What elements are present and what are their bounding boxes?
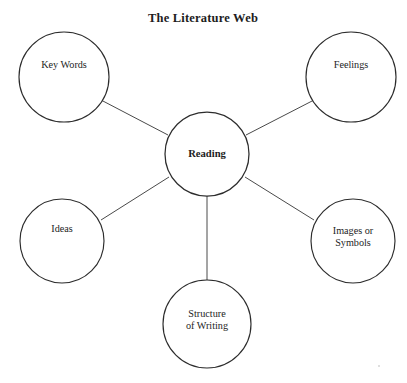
node-structure-of-writing[interactable]: Structureof Writing <box>163 280 251 368</box>
node-label-line: Reading <box>188 148 226 159</box>
node-label-ideas: Ideas <box>51 223 73 234</box>
node-circle-key-words[interactable] <box>19 32 109 122</box>
connector-reading-to-key-words <box>101 100 168 135</box>
node-feelings[interactable]: Feelings <box>306 32 396 122</box>
node-label-line: Symbols <box>335 237 371 248</box>
connector-reading-to-feelings <box>246 100 314 135</box>
node-label-reading: Reading <box>188 148 226 159</box>
node-label-line: Feelings <box>334 59 369 70</box>
node-label-line: Structure <box>188 308 226 319</box>
node-reading[interactable]: Reading <box>165 112 249 196</box>
node-images-or-symbols[interactable]: Images orSymbols <box>311 199 395 283</box>
scan-artifact-speck <box>378 365 380 367</box>
node-label-line: of Writing <box>186 320 228 331</box>
node-label-line: Key Words <box>41 59 87 70</box>
node-circle-feelings[interactable] <box>306 32 396 122</box>
diagram-canvas: The Literature Web Key WordsFeelingsIdea… <box>0 0 407 383</box>
node-label-key-words: Key Words <box>41 59 87 70</box>
node-key-words[interactable]: Key Words <box>19 32 109 122</box>
node-circle-ideas[interactable] <box>20 199 104 283</box>
connector-reading-to-images-or-symbols <box>245 177 314 220</box>
node-ideas[interactable]: Ideas <box>20 199 104 283</box>
node-label-feelings: Feelings <box>334 59 369 70</box>
node-label-images-or-symbols: Images orSymbols <box>333 225 374 248</box>
literature-web-figure: The Literature Web Key WordsFeelingsIdea… <box>0 0 407 383</box>
node-label-line: Images or <box>333 225 374 236</box>
page-title: The Literature Web <box>148 11 258 25</box>
connector-reading-to-ideas <box>101 177 169 220</box>
node-label-structure-of-writing: Structureof Writing <box>186 308 228 331</box>
node-label-line: Ideas <box>51 223 73 234</box>
